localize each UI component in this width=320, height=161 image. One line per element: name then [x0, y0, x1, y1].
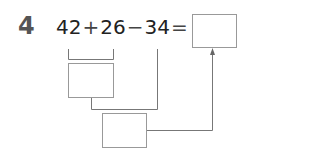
step1-answer-box[interactable] [68, 63, 114, 98]
step2-to-answer-line [146, 54, 213, 131]
final-answer-box[interactable] [192, 14, 237, 48]
arrow-up-icon [210, 48, 215, 55]
step2-answer-box[interactable] [102, 113, 147, 148]
bracket-line [69, 49, 114, 60]
